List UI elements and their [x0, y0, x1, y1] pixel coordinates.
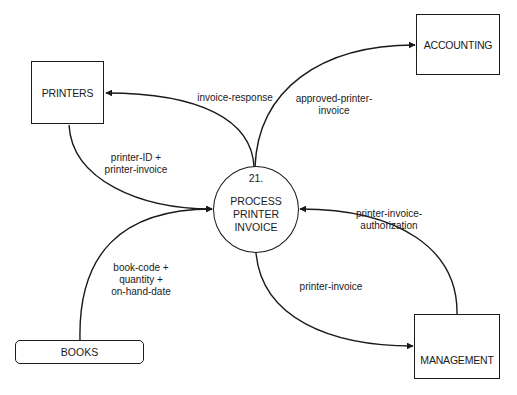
- process-id: 21.: [214, 172, 298, 185]
- flow-printer-invoice-line: [256, 253, 413, 346]
- flow-label-authorization: printer-invoice- authorization: [345, 208, 433, 232]
- entity-accounting[interactable]: ACCOUNTING: [416, 14, 500, 75]
- flow-label-printer-id-invoice: printer-ID + printer-invoice: [99, 152, 173, 176]
- process-name: PROCESS PRINTER INVOICE: [214, 195, 298, 234]
- entity-management[interactable]: MANAGEMENT: [414, 314, 500, 379]
- flow-label-approved-printer-invoice: approved-printer- invoice: [285, 93, 383, 117]
- entity-printers-label: PRINTERS: [42, 87, 94, 99]
- data-store-books-label: BOOKS: [61, 346, 98, 358]
- entity-accounting-label: ACCOUNTING: [424, 39, 493, 51]
- process-bubble[interactable]: 21. PROCESS PRINTER INVOICE: [213, 166, 299, 253]
- flow-label-invoice-response: invoice-response: [193, 92, 277, 104]
- entity-management-label: MANAGEMENT: [420, 354, 493, 366]
- data-flow-diagram: PRINTERS ACCOUNTING MANAGEMENT BOOKS 21.…: [0, 0, 517, 395]
- entity-printers[interactable]: PRINTERS: [31, 61, 104, 124]
- data-store-books[interactable]: BOOKS: [15, 340, 144, 364]
- flow-label-printer-invoice: printer-invoice: [294, 281, 368, 293]
- flow-label-book-code: book-code + quantity + on-hand-date: [106, 262, 176, 298]
